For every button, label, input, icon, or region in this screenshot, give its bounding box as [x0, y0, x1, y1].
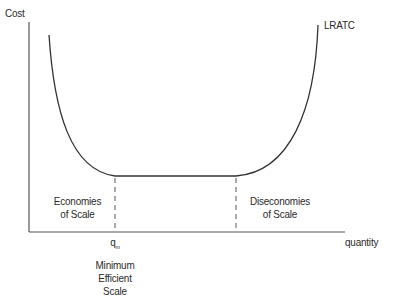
lratc-curve — [49, 25, 318, 176]
economies-line-2: of Scale — [44, 208, 112, 221]
lratc-diagram — [0, 0, 395, 299]
curve-label: LRATC — [324, 19, 355, 32]
caption-line-2: Efficient — [84, 272, 147, 285]
qm-marker-label: qm — [97, 236, 133, 254]
x-axis-label: quantity — [345, 236, 378, 249]
caption-line-3: Scale — [84, 285, 147, 298]
economies-of-scale-label: Economies of Scale — [44, 195, 112, 221]
diseconomies-line-1: Diseconomies — [244, 195, 316, 208]
caption-line-1: Minimum — [84, 259, 147, 272]
qm-subscript: m — [115, 244, 119, 250]
y-axis-label: Cost — [5, 7, 25, 20]
economies-line-1: Economies — [44, 195, 112, 208]
diseconomies-line-2: of Scale — [244, 208, 316, 221]
diseconomies-of-scale-label: Diseconomies of Scale — [244, 195, 316, 221]
minimum-efficient-scale-caption: Minimum Efficient Scale — [84, 259, 147, 298]
